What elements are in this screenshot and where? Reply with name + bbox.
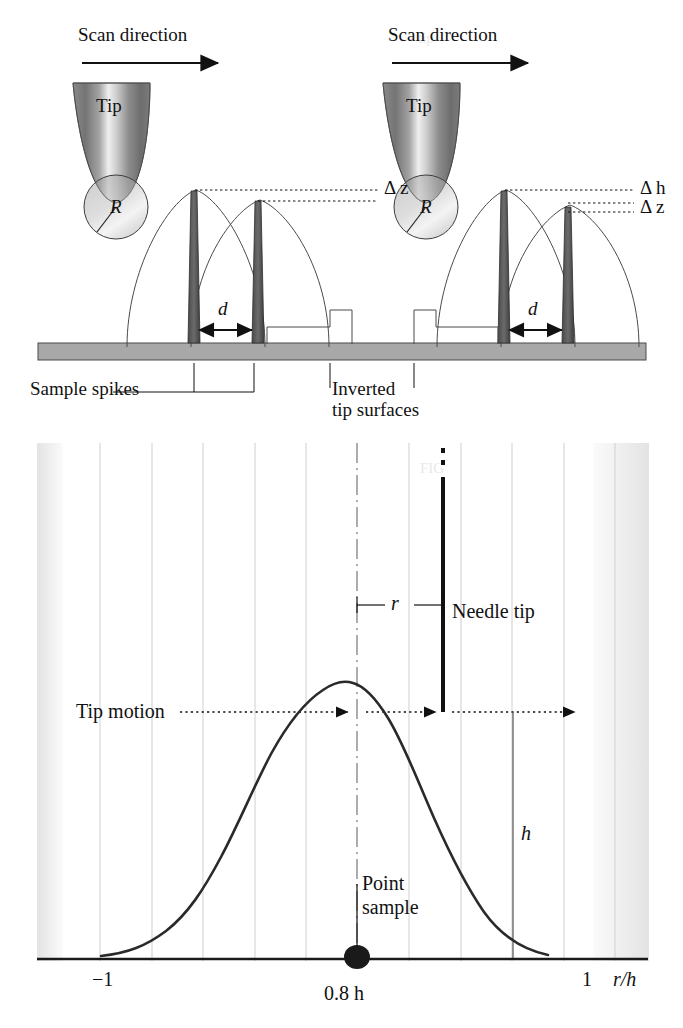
afm-tip-scan-schematic [0, 0, 683, 430]
inverted-tip-surfaces-label-line1: Inverted [332, 378, 395, 400]
delta-z-label-right: Δ z [640, 196, 664, 218]
substrate-bar [38, 343, 646, 360]
spacing-label-right: d [528, 298, 538, 320]
page-edge-shading-left [37, 443, 63, 961]
point-sample-marker [344, 945, 370, 969]
step-feature-left [267, 310, 352, 344]
page-edge-shading-right [593, 443, 649, 961]
sample-spike-right-2 [562, 207, 574, 343]
figure-canvas: tip FIG [0, 0, 683, 1028]
curve-helper [101, 686, 352, 955]
radius-label-right: R [420, 196, 432, 218]
tip-label-right: Tip [406, 95, 432, 117]
center-tick-label: 0.8 h [324, 982, 364, 1005]
x-tick-label-right: 1 [582, 968, 592, 991]
scan-direction-label-right: Scan direction [388, 24, 497, 46]
spacing-label-left: d [218, 298, 228, 320]
x-tick-label-left: −1 [92, 968, 113, 991]
x-axis-label: r/h [613, 968, 636, 991]
sample-spike-left-1 [188, 191, 200, 343]
bleedthrough-text: FIG [420, 460, 444, 477]
tip-label-left: Tip [96, 95, 122, 117]
sample-spike-right-1 [498, 191, 510, 343]
tip-motion-label: Tip motion [76, 700, 165, 723]
delta-z-label-left: Δ z [384, 177, 408, 199]
h-dimension-label: h [521, 822, 531, 845]
point-sample-label-line1: Point [362, 872, 404, 895]
scan-direction-label-left: Scan direction [78, 24, 187, 46]
gridlines [100, 443, 615, 961]
inverted-tip-surfaces-label-line2: tip surfaces [332, 399, 419, 421]
radius-label-left: R [110, 196, 122, 218]
tip-motion-curve [101, 682, 548, 956]
needle-tip-label: Needle tip [452, 600, 535, 623]
r-dimension [357, 597, 443, 613]
point-sample-label-line2: sample [362, 896, 419, 919]
sample-spike-left-2 [252, 201, 264, 343]
step-feature-right [414, 310, 498, 344]
r-dimension-label: r [391, 592, 399, 615]
sample-spikes-label: Sample spikes [30, 378, 139, 400]
